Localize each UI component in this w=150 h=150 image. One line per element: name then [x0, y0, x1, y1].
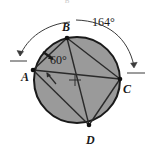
point-B-dot	[65, 36, 70, 41]
circle-geometry-figure: A B C D 60° 164°	[0, 0, 150, 150]
point-label-B: B	[61, 20, 70, 34]
point-A-dot	[31, 68, 36, 73]
right-arc-arrowhead-icon	[131, 62, 138, 68]
inscribed-angle-label: 60°	[50, 53, 67, 67]
arc-angle-label: 164°	[92, 15, 115, 29]
point-label-A: A	[20, 70, 29, 84]
point-label-D: D	[85, 133, 95, 147]
point-D-dot	[87, 123, 92, 128]
point-label-C: C	[123, 82, 132, 96]
left-arc-arrowhead-icon	[17, 51, 24, 57]
point-C-dot	[118, 77, 123, 82]
